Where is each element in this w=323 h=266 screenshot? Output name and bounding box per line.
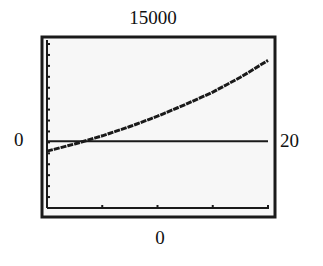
xmin-label: 0	[14, 130, 24, 150]
ymax-label: 15000	[113, 8, 193, 28]
screen-frame	[42, 37, 275, 217]
ymin-label: 0	[130, 228, 190, 248]
xmax-label: 20	[280, 131, 299, 151]
